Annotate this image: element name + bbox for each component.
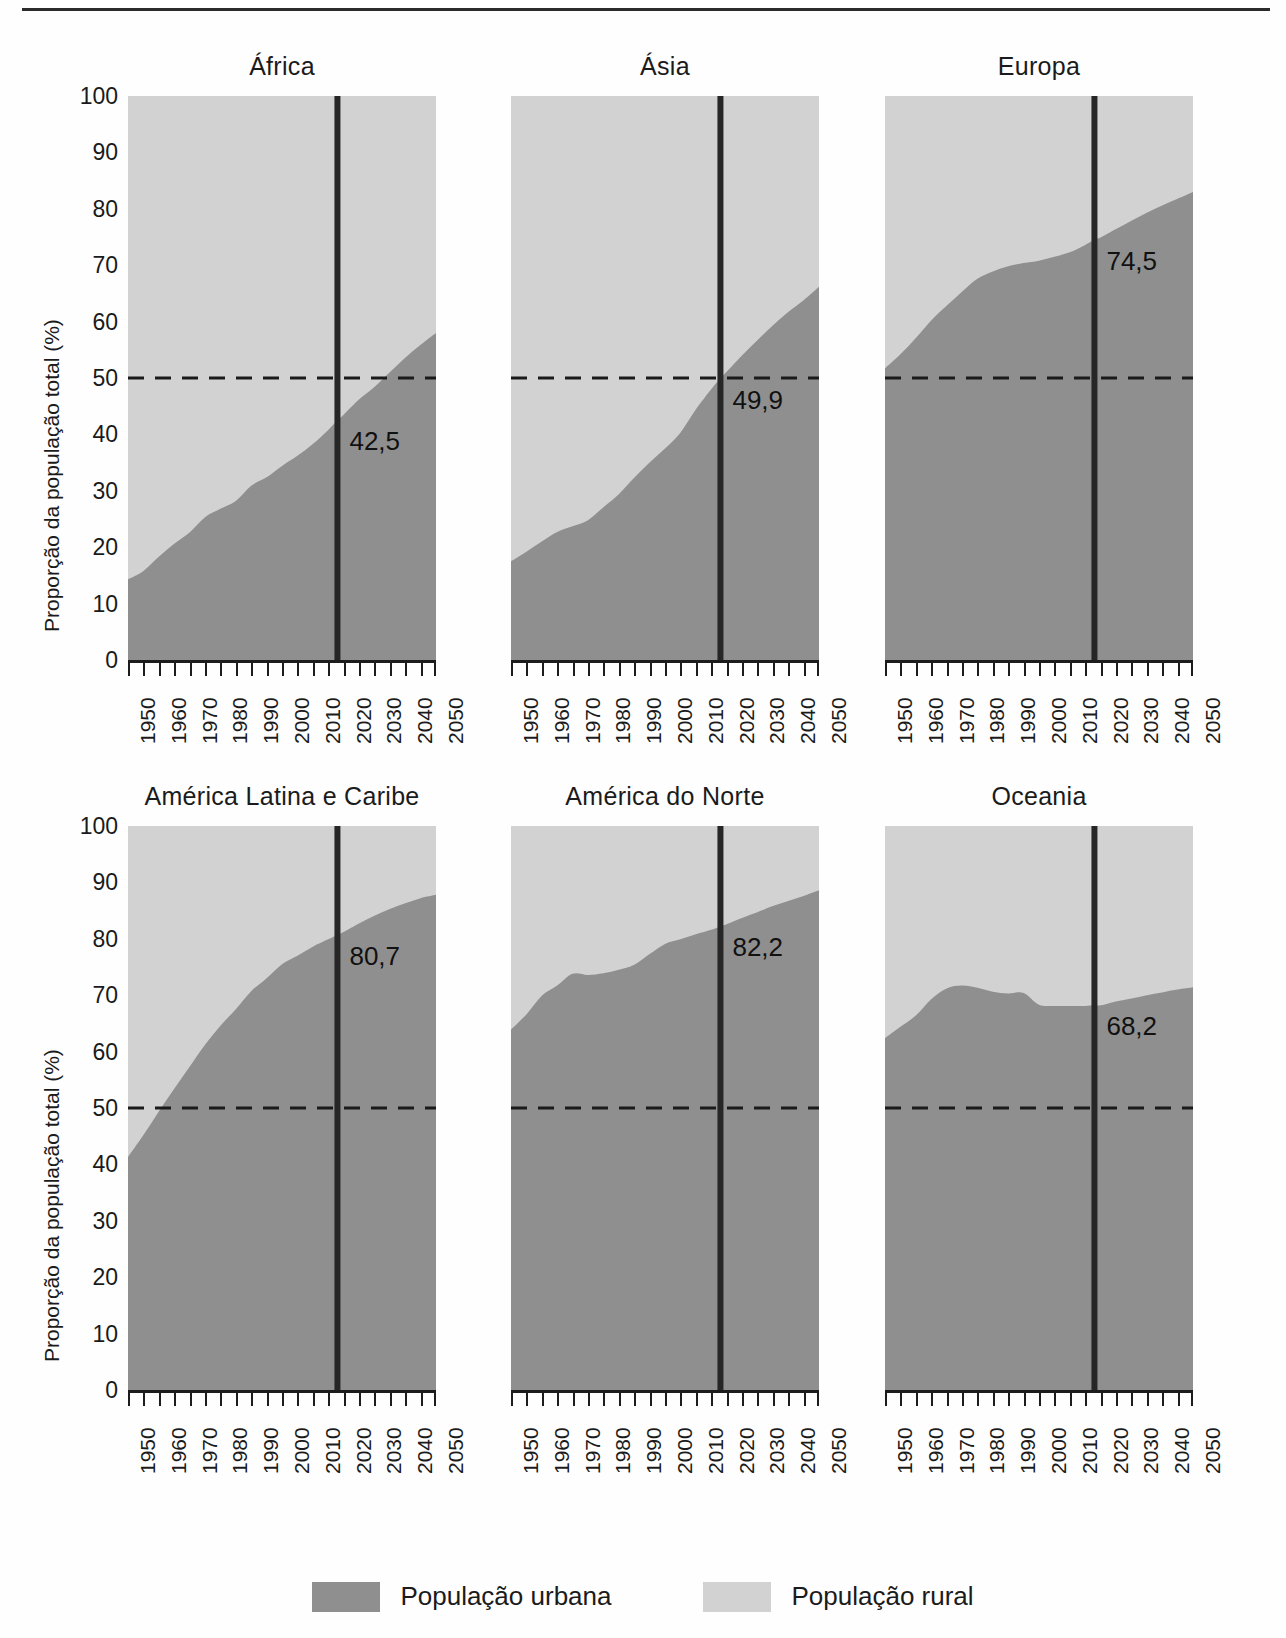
x-axis-tick xyxy=(1054,1392,1056,1406)
x-axis-tick-label: 2020 xyxy=(735,1427,759,1474)
x-axis-tick xyxy=(205,662,207,676)
x-axis-tick xyxy=(650,662,652,676)
x-axis-tick xyxy=(1147,1392,1149,1406)
x-axis-tick xyxy=(434,1392,436,1406)
y-axis-tick-label: 70 xyxy=(92,252,118,279)
x-axis-tick xyxy=(359,662,361,676)
x-axis-tick-label: 1990 xyxy=(642,1427,666,1474)
x-axis-tick-label: 2040 xyxy=(413,697,437,744)
x-axis-tick xyxy=(390,1392,392,1406)
x-axis-tick-label: 1980 xyxy=(228,697,252,744)
panel-value-label: 68,2 xyxy=(1106,1011,1157,1042)
x-axis-tick-label: 1960 xyxy=(924,1427,948,1474)
x-axis-tick-label: 1990 xyxy=(1016,1427,1040,1474)
x-axis-tick xyxy=(962,662,964,676)
y-axis-tick-label: 20 xyxy=(92,1264,118,1291)
x-axis-tick xyxy=(696,1392,698,1406)
panel-value-label: 80,7 xyxy=(349,941,400,972)
x-axis xyxy=(511,1390,819,1406)
panel-value-label: 42,5 xyxy=(349,426,400,457)
x-axis-tick xyxy=(619,1392,621,1406)
panel-title: Ásia xyxy=(511,52,819,81)
legend-item-rural: População rural xyxy=(703,1581,973,1612)
y-axis-tick-label: 50 xyxy=(92,1095,118,1122)
top-divider-rule xyxy=(22,8,1270,11)
x-axis-tick-label: 2040 xyxy=(413,1427,437,1474)
x-axis-tick xyxy=(804,1392,806,1406)
x-axis-tick xyxy=(773,662,775,676)
x-axis-tick-label: 2050 xyxy=(444,1427,468,1474)
x-axis-tick xyxy=(1178,1392,1180,1406)
x-axis-tick xyxy=(205,1392,207,1406)
panel-value-label: 82,2 xyxy=(732,932,783,963)
x-axis-tick xyxy=(220,1392,222,1406)
x-axis-tick xyxy=(359,1392,361,1406)
x-axis-tick-label: 2030 xyxy=(382,697,406,744)
x-axis xyxy=(885,1390,1193,1406)
x-axis-tick-label: 2020 xyxy=(352,1427,376,1474)
x-axis-tick-label: 1980 xyxy=(228,1427,252,1474)
x-axis-tick xyxy=(885,1392,887,1406)
x-axis-tick-label: 1980 xyxy=(611,1427,635,1474)
x-axis-tick xyxy=(711,662,713,676)
y-axis-tick-label: 0 xyxy=(105,647,118,674)
stacked-area-plot xyxy=(511,826,819,1390)
panel-title: Europa xyxy=(885,52,1193,81)
x-axis xyxy=(128,660,436,676)
legend-swatch-rural xyxy=(703,1582,771,1612)
y-axis-tick-label: 10 xyxy=(92,1320,118,1347)
x-axis-tick xyxy=(374,1392,376,1406)
stacked-area-plot xyxy=(128,96,436,660)
x-axis-tick-label: 2050 xyxy=(827,1427,851,1474)
x-axis-tick xyxy=(1147,662,1149,676)
x-axis-tick xyxy=(947,662,949,676)
x-axis-tick-label: 1980 xyxy=(985,1427,1009,1474)
x-axis-tick xyxy=(313,1392,315,1406)
x-axis-tick xyxy=(757,662,759,676)
x-axis-tick xyxy=(1131,1392,1133,1406)
x-axis-tick xyxy=(511,662,513,676)
panel-value-label: 49,9 xyxy=(732,385,783,416)
x-axis-tick-label: 1970 xyxy=(198,697,222,744)
x-axis-tick xyxy=(344,1392,346,1406)
chart-legend: População urbana População rural xyxy=(0,1581,1286,1612)
x-axis-tick-label: 1980 xyxy=(611,697,635,744)
x-axis-tick-label: 2000 xyxy=(1047,697,1071,744)
x-axis-tick xyxy=(962,1392,964,1406)
x-axis-tick xyxy=(885,662,887,676)
y-axis-tick-label: 80 xyxy=(92,925,118,952)
x-axis-tick xyxy=(1024,662,1026,676)
x-axis-tick-label: 1950 xyxy=(519,1427,543,1474)
x-axis-tick xyxy=(696,662,698,676)
x-axis-tick xyxy=(634,1392,636,1406)
x-axis-tick xyxy=(297,1392,299,1406)
x-axis-tick xyxy=(297,662,299,676)
x-axis xyxy=(885,660,1193,676)
x-axis-tick xyxy=(665,1392,667,1406)
x-axis-tick xyxy=(1008,662,1010,676)
stacked-area-plot xyxy=(885,826,1193,1390)
x-axis-tick xyxy=(727,662,729,676)
x-axis-tick xyxy=(711,1392,713,1406)
x-axis-tick xyxy=(1085,662,1087,676)
x-axis-tick xyxy=(236,662,238,676)
y-axis-tick-label: 60 xyxy=(92,1038,118,1065)
x-axis-tick xyxy=(282,662,284,676)
x-axis-tick xyxy=(267,1392,269,1406)
x-axis-tick-label: 2010 xyxy=(704,1427,728,1474)
x-axis-tick xyxy=(993,1392,995,1406)
x-axis-tick-label: 2030 xyxy=(765,1427,789,1474)
x-axis-tick xyxy=(1101,1392,1103,1406)
x-axis-tick xyxy=(788,1392,790,1406)
x-axis-tick xyxy=(159,662,161,676)
y-axis-tick-label: 30 xyxy=(92,477,118,504)
y-axis-tick-label: 10 xyxy=(92,590,118,617)
y-axis-tick-label: 70 xyxy=(92,982,118,1009)
x-axis-tick-label: 1990 xyxy=(259,1427,283,1474)
x-axis-tick xyxy=(977,1392,979,1406)
x-axis-tick xyxy=(1008,1392,1010,1406)
y-axis-tick-labels: 1009080706050403020100 xyxy=(62,96,118,660)
x-axis-tick xyxy=(650,1392,652,1406)
x-axis-tick xyxy=(128,662,130,676)
x-axis-tick-label: 2040 xyxy=(1170,1427,1194,1474)
